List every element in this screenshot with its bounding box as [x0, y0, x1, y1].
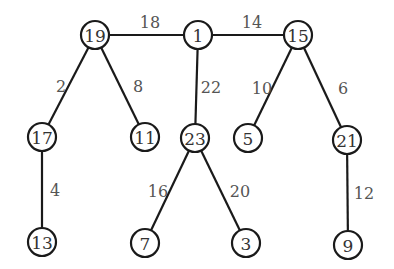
node-17: 17	[28, 123, 56, 151]
node-21: 21	[333, 126, 361, 154]
edge-weight-label: 16	[148, 182, 168, 201]
node-5: 5	[234, 124, 262, 152]
node-19: 19	[81, 21, 109, 49]
node-label: 9	[343, 236, 354, 256]
edge-weight-label: 2	[56, 77, 66, 96]
node-label: 19	[84, 26, 106, 46]
nodes-layer: 1911517112352113739	[28, 21, 362, 259]
node-label: 21	[336, 131, 358, 151]
node-23: 23	[181, 124, 209, 152]
edge-weight-label: 8	[133, 77, 143, 96]
node-label: 17	[31, 128, 53, 148]
tree-diagram: 181428221064162012 1911517112352113739	[0, 0, 394, 269]
node-label: 23	[184, 129, 206, 149]
node-label: 1	[193, 26, 204, 46]
edge-21-9	[347, 140, 348, 245]
node-label: 13	[31, 233, 53, 253]
node-15: 15	[284, 21, 312, 49]
edge-1-23	[195, 35, 198, 138]
edge-weight-label: 14	[242, 13, 262, 32]
node-1: 1	[184, 21, 212, 49]
edge-weight-label: 22	[201, 78, 221, 97]
node-label: 15	[287, 26, 309, 46]
edge-weight-label: 4	[50, 181, 60, 200]
node-label: 11	[134, 128, 156, 148]
node-7: 7	[131, 229, 159, 257]
node-label: 7	[140, 234, 151, 254]
edge-weight-label: 10	[252, 79, 272, 98]
node-label: 5	[243, 129, 254, 149]
edge-weight-label: 6	[338, 79, 348, 98]
node-9: 9	[334, 231, 362, 259]
node-3: 3	[232, 229, 260, 257]
node-11: 11	[131, 123, 159, 151]
node-label: 3	[241, 234, 252, 254]
edge-19-17	[42, 35, 95, 137]
node-13: 13	[28, 228, 56, 256]
edge-weight-label: 12	[354, 184, 374, 203]
edge-weight-label: 20	[230, 182, 250, 201]
edge-weight-label: 18	[140, 13, 160, 32]
